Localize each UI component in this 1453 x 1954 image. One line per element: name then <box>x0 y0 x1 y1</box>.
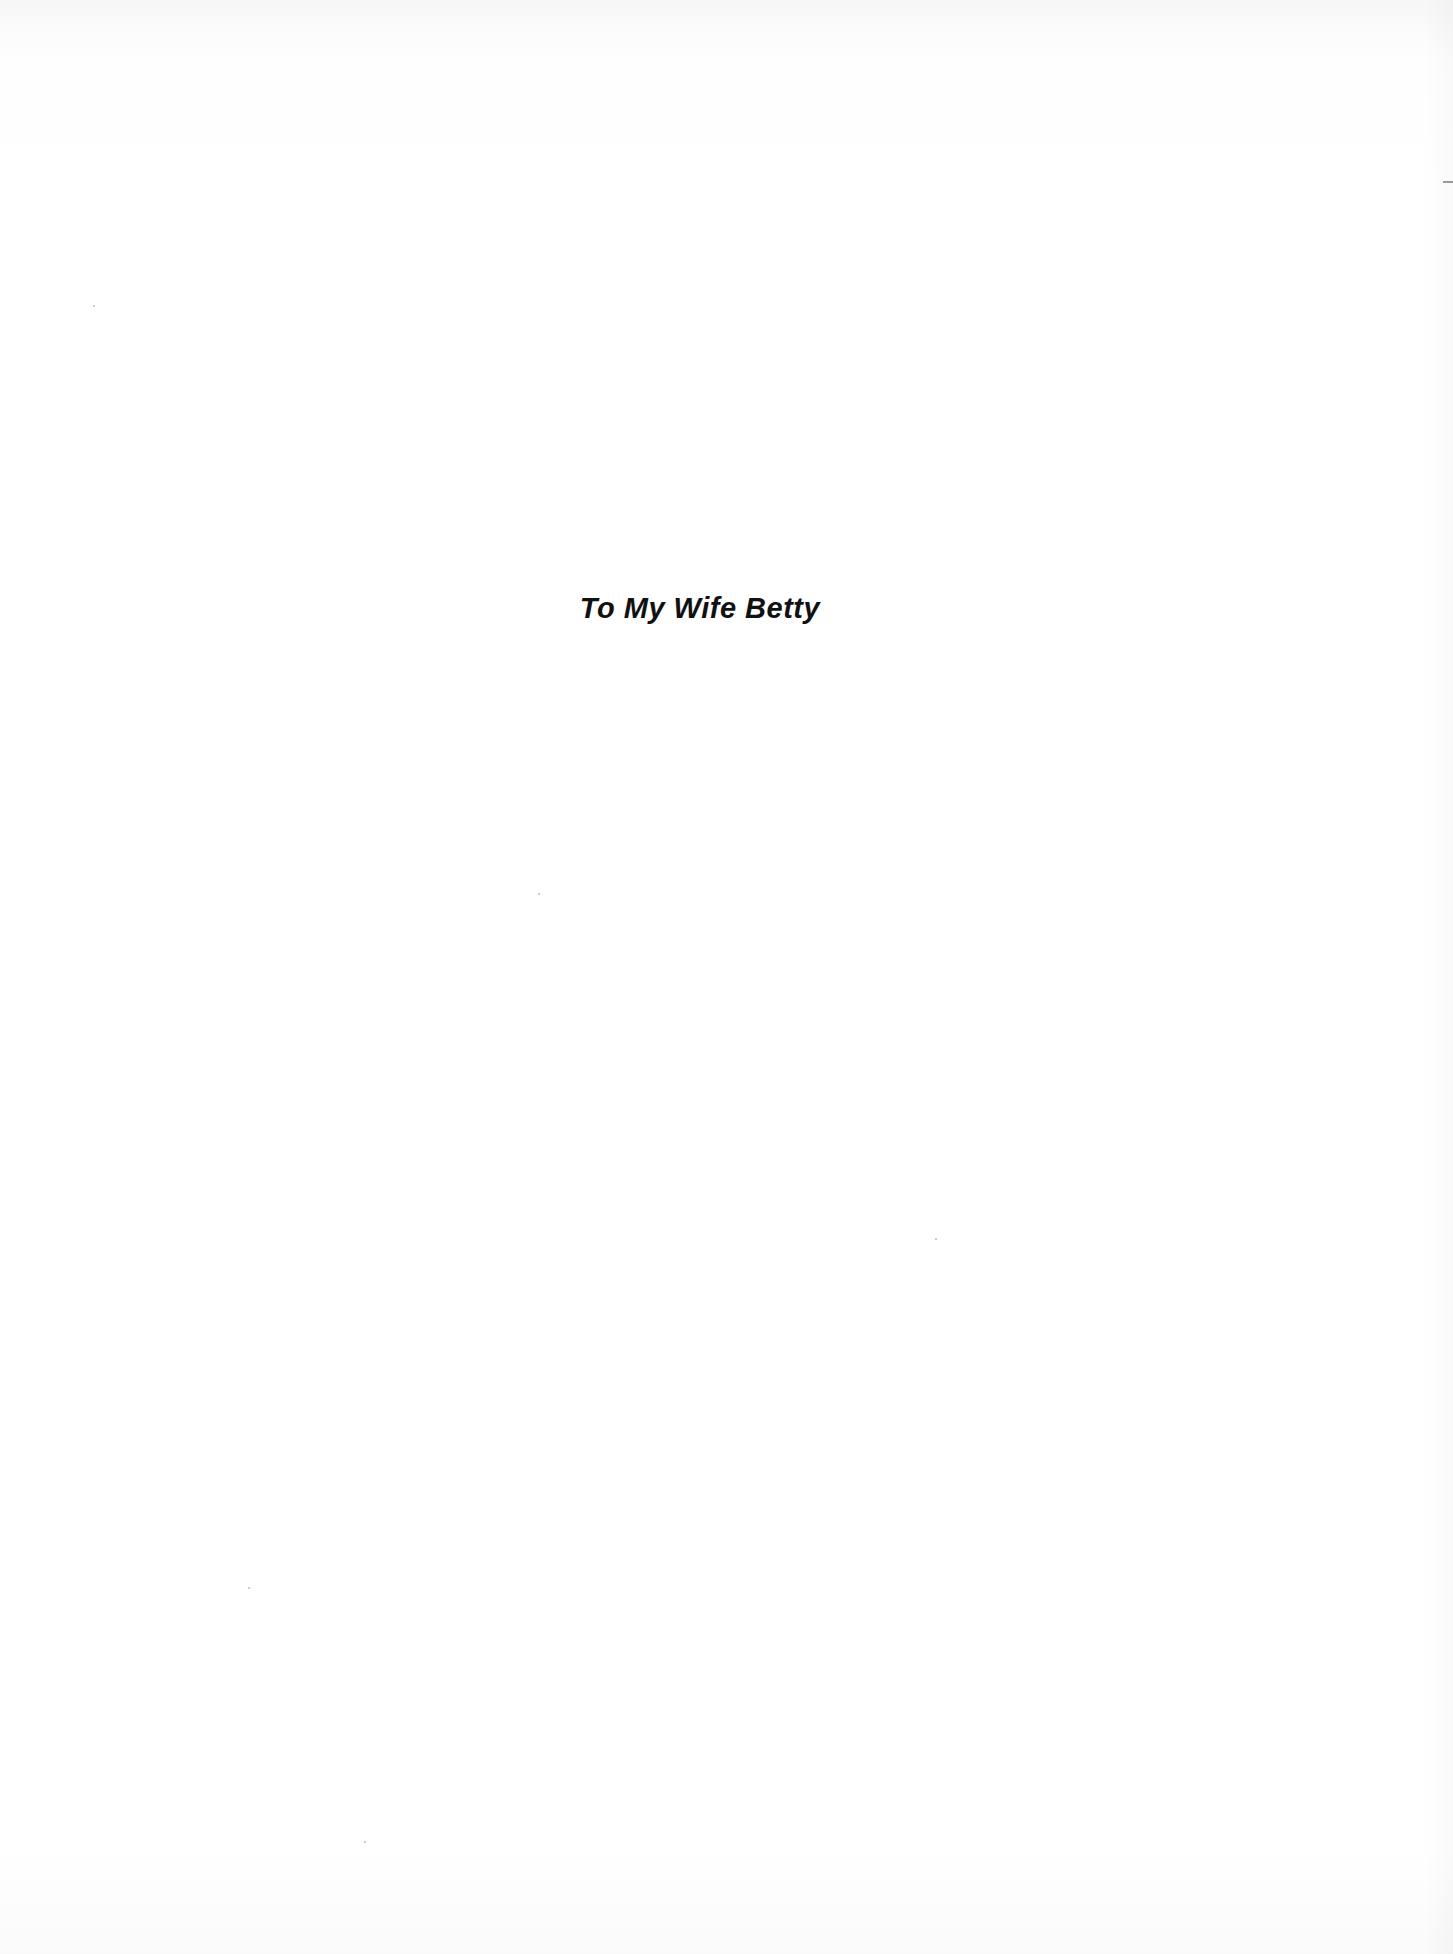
document-page: To My Wife Betty <box>0 0 1453 1954</box>
scan-speck <box>935 1238 937 1240</box>
dedication-text: To My Wife Betty <box>0 592 1400 625</box>
scan-speck <box>538 893 540 895</box>
margin-mark <box>1443 181 1453 183</box>
scan-speck <box>93 305 95 307</box>
scan-speck <box>364 1841 366 1843</box>
scan-speck <box>248 1587 250 1589</box>
page-edge-shadow <box>1423 0 1453 1954</box>
